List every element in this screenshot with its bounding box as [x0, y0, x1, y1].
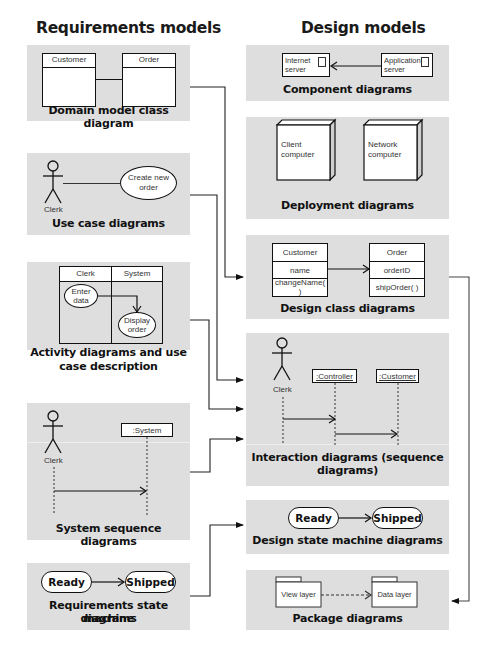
- interaction-lifelines: [246, 333, 449, 458]
- system-sequence-caption: System sequence diagrams: [27, 522, 190, 548]
- client-computer-label: Client computer: [281, 140, 321, 160]
- design-class-caption: Design class diagrams: [246, 302, 449, 315]
- order-class-name: Order: [123, 54, 175, 68]
- use-case-label: Create new order: [127, 173, 171, 193]
- package-panel: View layer Data layer Package diagrams: [246, 570, 449, 630]
- connector-state-to-design-state: [190, 525, 243, 596]
- design-state-machine-panel: Ready Shipped Design state machine diagr…: [246, 500, 449, 554]
- customer-class-box: Customer: [42, 53, 96, 107]
- package-caption: Package diagrams: [246, 612, 449, 625]
- design-class-panel: Customer name changeName( ) Order orderI…: [246, 235, 449, 319]
- connector-domain-to-design-class: [190, 87, 243, 277]
- component-caption: Component diagrams: [246, 83, 449, 96]
- interaction-panel: Clerk :Controller :Customer Interaction …: [246, 333, 449, 486]
- connector-usecase-to-interaction: [190, 195, 243, 380]
- deployment-caption: Deployment diagrams: [246, 199, 449, 212]
- view-layer-package: View layer: [276, 590, 321, 599]
- create-order-use-case: Create new order: [120, 166, 177, 200]
- actor-association-line: [63, 183, 120, 184]
- activity-caption-line1: Activity diagrams and use: [27, 346, 190, 359]
- design-models-heading: Design models: [301, 19, 426, 37]
- activity-panel: Clerk System Enter data Display order Ac…: [27, 262, 190, 350]
- deployment-panel: Client computer Network computer Deploym…: [246, 117, 449, 219]
- connector-design-class-to-package: [449, 277, 469, 601]
- activity-flow-arrow: [27, 262, 190, 350]
- clerk-actor-icon: [38, 159, 68, 209]
- use-case-caption: Use case diagrams: [27, 217, 190, 230]
- ssd-lifelines: [27, 403, 190, 540]
- component-dependency-arrow: [246, 45, 449, 85]
- req-state-caption-line2: diagrams: [27, 612, 190, 625]
- domain-model-caption: Domain model class diagram: [27, 104, 190, 130]
- use-case-panel: Clerk Create new order Use case diagrams: [27, 153, 190, 235]
- customer-class-name: Customer: [43, 54, 95, 68]
- activity-caption-line2: case description: [27, 360, 190, 373]
- data-layer-package: Data layer: [372, 590, 417, 599]
- network-computer-label: Network computer: [368, 140, 408, 160]
- domain-model-panel: Customer Order Domain model class diagra…: [27, 45, 190, 121]
- design-state-caption: Design state machine diagrams: [246, 534, 449, 547]
- requirements-models-heading: Requirements models: [36, 19, 221, 37]
- use-case-actor-label: Clerk: [44, 205, 63, 214]
- interaction-caption-line2: diagrams): [246, 464, 449, 477]
- component-panel: Internet server Application server Compo…: [246, 45, 449, 101]
- interaction-caption-line1: Interaction diagrams (sequence: [246, 451, 449, 464]
- connector-ssd-to-interaction: [190, 439, 243, 472]
- connector-activity-to-interaction: [190, 320, 243, 409]
- order-class-box: Order: [122, 53, 176, 107]
- req-transition-arrow: [27, 563, 190, 603]
- req-state-machine-panel: Ready Shipped Requirements state machine…: [27, 563, 190, 630]
- deployment-nodes: [246, 117, 449, 197]
- association-line: [96, 79, 122, 80]
- system-sequence-panel: Clerk :System System sequence diagrams: [27, 403, 190, 540]
- design-class-association-arrow: [246, 235, 449, 295]
